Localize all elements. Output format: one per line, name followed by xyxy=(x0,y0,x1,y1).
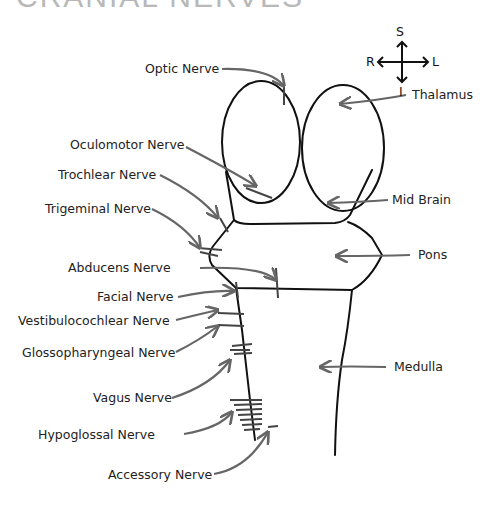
label-oculomotor-nerve: Oculomotor Nerve xyxy=(70,138,185,152)
left-thalamus-shape xyxy=(222,81,300,203)
label-trochlear-nerve: Trochlear Nerve xyxy=(58,168,156,182)
nerve-stubs xyxy=(198,84,284,427)
label-pons: Pons xyxy=(418,248,447,262)
label-trigeminal-nerve: Trigeminal Nerve xyxy=(45,202,151,216)
midbrain-shape xyxy=(226,170,372,224)
medulla-right-edge xyxy=(335,290,352,455)
hypoglossal-hatching xyxy=(230,400,262,430)
label-medulla: Medulla xyxy=(394,360,443,374)
label-facial-nerve: Facial Nerve xyxy=(97,290,173,304)
label-accessory-nerve: Accessory Nerve xyxy=(108,468,212,482)
label-vestibulocochlear-nerve: Vestibulocochlear Nerve xyxy=(18,314,170,328)
label-hypoglossal-nerve: Hypoglossal Nerve xyxy=(38,428,155,442)
label-mid-brain: Mid Brain xyxy=(392,193,451,207)
medulla-left-edge xyxy=(236,288,255,440)
label-vagus-nerve: Vagus Nerve xyxy=(93,391,172,405)
label-abducens-nerve: Abducens Nerve xyxy=(68,261,171,275)
label-glossopharyngeal-nerve: Glossopharyngeal Nerve xyxy=(22,346,175,360)
label-optic-nerve: Optic Nerve xyxy=(145,62,219,76)
label-thalamus: Thalamus xyxy=(412,88,473,102)
